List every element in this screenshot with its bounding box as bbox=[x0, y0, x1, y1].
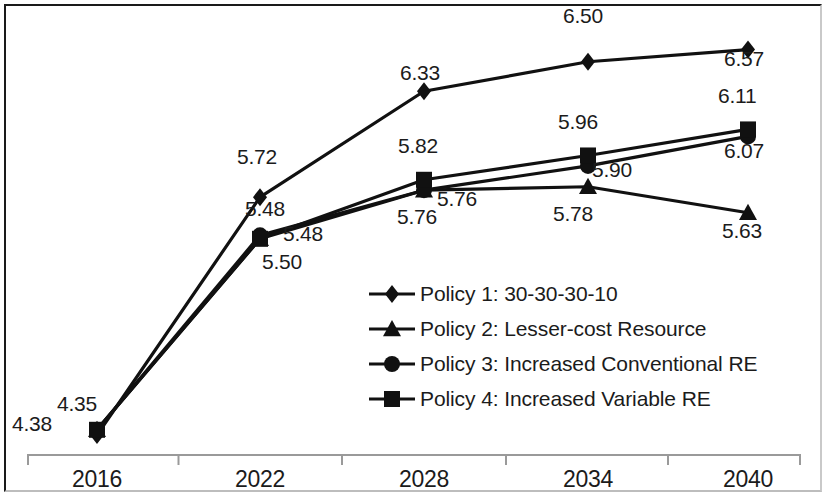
data-point-label: 5.48 bbox=[245, 197, 285, 221]
legend-marker-triangle-icon bbox=[368, 319, 416, 339]
chart-figure: 4.384.355.725.485.485.506.335.825.765.76… bbox=[0, 0, 828, 500]
data-point-label: 6.50 bbox=[563, 4, 603, 28]
data-point-label: 5.82 bbox=[398, 134, 438, 158]
legend-label: Policy 2: Lesser-cost Resource bbox=[420, 317, 706, 341]
chart-legend: Policy 1: 30-30-30-10Policy 2: Lesser-co… bbox=[368, 276, 757, 416]
data-point-label: 6.11 bbox=[718, 84, 757, 108]
data-point-square bbox=[416, 172, 432, 188]
data-point-label: 5.72 bbox=[237, 145, 277, 169]
data-point-label: 5.48 bbox=[283, 222, 323, 246]
legend-marker-square-icon bbox=[368, 389, 416, 409]
data-point-label: 6.07 bbox=[724, 139, 764, 163]
data-point-label: 6.33 bbox=[400, 61, 440, 85]
data-point-label: 5.63 bbox=[722, 219, 762, 243]
data-point-label: 5.78 bbox=[553, 202, 593, 226]
data-point-label: 5.76 bbox=[397, 205, 437, 229]
legend-label: Policy 4: Increased Variable RE bbox=[420, 387, 711, 411]
data-point-square bbox=[89, 422, 105, 438]
x-axis-line bbox=[28, 455, 800, 465]
legend-label: Policy 1: 30-30-30-10 bbox=[420, 282, 618, 306]
data-point-label: 5.96 bbox=[558, 110, 598, 134]
data-point-label: 6.57 bbox=[724, 47, 764, 71]
legend-item-2[interactable]: Policy 2: Lesser-cost Resource bbox=[368, 311, 757, 346]
x-axis-label-2022: 2022 bbox=[235, 466, 285, 493]
x-axis-label-2040: 2040 bbox=[723, 466, 773, 493]
x-axis-label-2034: 2034 bbox=[563, 466, 613, 493]
legend-marker-diamond-icon bbox=[368, 284, 416, 304]
data-point-label: 5.90 bbox=[592, 158, 632, 182]
data-point-square bbox=[740, 121, 756, 137]
data-point-label: 4.38 bbox=[12, 412, 52, 436]
data-point-label: 5.50 bbox=[262, 250, 302, 274]
legend-item-1[interactable]: Policy 1: 30-30-30-10 bbox=[368, 276, 757, 311]
data-point-square bbox=[252, 231, 268, 247]
data-point-label: 5.76 bbox=[437, 187, 477, 211]
x-axis-label-2016: 2016 bbox=[72, 466, 122, 493]
data-point-label: 4.35 bbox=[57, 392, 97, 416]
legend-item-4[interactable]: Policy 4: Increased Variable RE bbox=[368, 381, 757, 416]
legend-marker-circle-icon bbox=[368, 354, 416, 374]
data-point-diamond bbox=[581, 53, 595, 71]
legend-label: Policy 3: Increased Conventional RE bbox=[420, 352, 757, 376]
legend-item-3[interactable]: Policy 3: Increased Conventional RE bbox=[368, 346, 757, 381]
x-axis-label-2028: 2028 bbox=[399, 466, 449, 493]
x-axis-layer bbox=[28, 455, 800, 465]
